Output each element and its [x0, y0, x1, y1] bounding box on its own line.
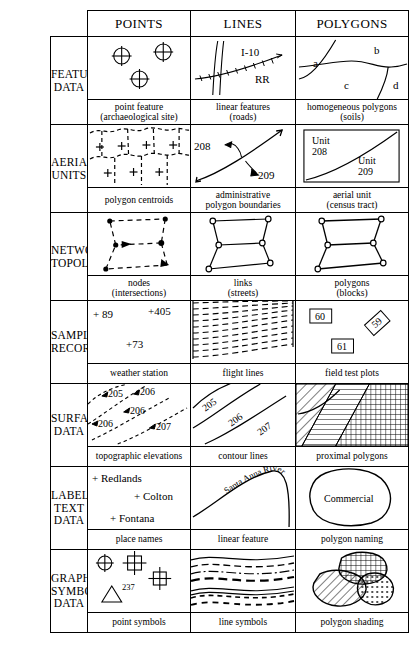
label-elev-206b: 206: [130, 406, 145, 416]
art-census-tract-unit: Unit 208 Unit 209: [296, 125, 408, 187]
caption-line: links: [191, 278, 295, 288]
label-place-colton: + Colton: [134, 491, 173, 502]
caption-line: homogeneous polygons: [296, 102, 408, 112]
caption-line: place names: [88, 534, 190, 544]
caption-row-network-topology: nodes (intersections) links (streets) po…: [51, 276, 409, 301]
label-unit-number-208: 208: [312, 147, 327, 157]
cell-label-polygons: Commercial: [296, 467, 409, 530]
cell-sampling-lines: [191, 301, 296, 364]
caption-line: linear feature: [191, 534, 295, 544]
caption-field-test-plots: field test plots: [296, 364, 409, 384]
label-place-fontana: + Fontana: [110, 513, 154, 524]
label-elev-207: 207: [156, 422, 171, 432]
label-interstate: I-10: [241, 47, 259, 58]
gis-data-types-matrix: POINTS LINES POLYGONS FEATURE DATA: [50, 10, 409, 633]
column-header-points: POINTS: [88, 11, 191, 37]
label-polygon-commercial: Commercial: [324, 494, 373, 504]
art-place-names: + Redlands + Colton + Fontana: [88, 467, 190, 529]
caption-row-label-text-data: place names linear feature polygon namin…: [51, 530, 409, 550]
caption-row-graphic-symbol-data: point symbols line symbols polygon shadi…: [51, 613, 409, 633]
caption-administrative-boundaries: administrative polygon boundaries: [191, 188, 296, 213]
cell-label-points: + Redlands + Colton + Fontana: [88, 467, 191, 530]
cell-graphic-polygons: [296, 550, 409, 613]
caption-flight-lines: flight lines: [191, 364, 296, 384]
cell-surface-lines: 205 206 207: [191, 384, 296, 447]
label-unit-number-209: 209: [358, 167, 373, 177]
caption-line-symbols: line symbols: [191, 613, 296, 633]
caption-polygons-blocks: polygons (blocks): [296, 276, 409, 301]
cell-graphic-points: 237: [88, 550, 191, 613]
art-linear-features: I-10 RR: [191, 37, 295, 99]
row-label-line: TEXT: [54, 502, 84, 514]
caption-polygon-naming: polygon naming: [296, 530, 409, 550]
caption-point-feature: point feature (archaeological site): [88, 100, 191, 125]
art-network-links: [191, 213, 295, 275]
matrix-row-label-text-data: LABEL/ TEXT DATA + Redlands + Colton + F…: [51, 467, 409, 530]
cell-surface-polygons: [296, 384, 409, 447]
caption-row-sampling-records: weather station flight lines field test …: [51, 364, 409, 384]
caption-line: polygon naming: [296, 534, 408, 544]
caption-line: (soils): [296, 112, 408, 122]
row-label-sampling-records: SAMPLING RECORDS: [51, 301, 88, 384]
cell-feature-lines: I-10 RR: [191, 37, 296, 100]
caption-line: field test plots: [296, 368, 408, 378]
caption-line: administrative: [191, 190, 295, 200]
caption-line: (archaeological site): [88, 112, 190, 122]
caption-line: (streets): [191, 288, 295, 298]
caption-line: contour lines: [191, 451, 295, 461]
label-station-405: +405: [148, 306, 171, 317]
cell-feature-points: [88, 37, 191, 100]
caption-line: polygon centroids: [88, 195, 190, 205]
cell-label-lines: Santa Anna River: [191, 467, 296, 530]
label-polygon-c: c: [344, 80, 349, 91]
caption-homogeneous-polygons: homogeneous polygons (soils): [296, 100, 409, 125]
caption-line: polygons: [296, 278, 408, 288]
row-label-feature-data: FEATURE DATA: [51, 37, 88, 125]
caption-place-names: place names: [88, 530, 191, 550]
row-label-surface-data: SURFACE DATA: [51, 384, 88, 467]
label-plot-61: 61: [337, 342, 347, 352]
art-topographic-elevations: 205 206 206 206 207: [88, 384, 190, 446]
caption-row-aerial-units: polygon centroids administrative polygon…: [51, 188, 409, 213]
row-label-line: LABEL/: [51, 489, 92, 501]
caption-line: proximal polygons: [296, 451, 408, 461]
river-label-text: Santa Anna River: [222, 467, 288, 496]
cell-network-polygons: [296, 213, 409, 276]
caption-line: linear features: [191, 102, 295, 112]
row-label-line: DATA: [54, 514, 85, 526]
label-unit-209: 209: [258, 170, 275, 181]
cell-surface-points: 205 206 206 206 207: [88, 384, 191, 447]
art-weather-stations: + 89 +405 +73: [88, 301, 190, 363]
art-point-features: [88, 37, 190, 99]
caption-line: (census tract): [296, 200, 408, 210]
label-polygon-d: d: [393, 80, 399, 91]
figure-canvas: POINTS LINES POLYGONS FEATURE DATA: [0, 0, 414, 656]
art-proximal-polygons: [296, 384, 408, 446]
label-plot-60: 60: [315, 312, 325, 322]
label-station-89: + 89: [93, 309, 113, 320]
art-field-test-plots: 60 59 61: [296, 301, 408, 363]
caption-line: polygon boundaries: [191, 200, 295, 210]
caption-topographic-elevations: topographic elevations: [88, 447, 191, 467]
art-river-linear-feature: Santa Anna River: [191, 467, 295, 529]
caption-line: aerial unit: [296, 190, 408, 200]
label-polygon-b: b: [374, 45, 380, 56]
column-header-lines: LINES: [191, 11, 296, 37]
row-label-label-text-data: LABEL/ TEXT DATA: [51, 467, 88, 550]
caption-line: flight lines: [191, 368, 295, 378]
svg-text:Santa Anna River: Santa Anna River: [222, 467, 288, 496]
art-block-polygons: [296, 213, 408, 275]
row-label-line: DATA: [54, 597, 85, 609]
caption-row-feature-data: point feature (archaeological site) line…: [51, 100, 409, 125]
caption-line: point feature: [88, 102, 190, 112]
caption-row-surface-data: topographic elevations contour lines pro…: [51, 447, 409, 467]
caption-contour-lines: contour lines: [191, 447, 296, 467]
caption-proximal-polygons: proximal polygons: [296, 447, 409, 467]
art-contour-lines: 205 206 207: [191, 384, 295, 446]
label-railroad: RR: [255, 74, 270, 85]
caption-weather-station: weather station: [88, 364, 191, 384]
caption-line: line symbols: [191, 617, 295, 627]
caption-polygon-centroids: polygon centroids: [88, 188, 191, 213]
label-station-73: +73: [126, 339, 143, 350]
caption-linear-features: linear features (roads): [191, 100, 296, 125]
